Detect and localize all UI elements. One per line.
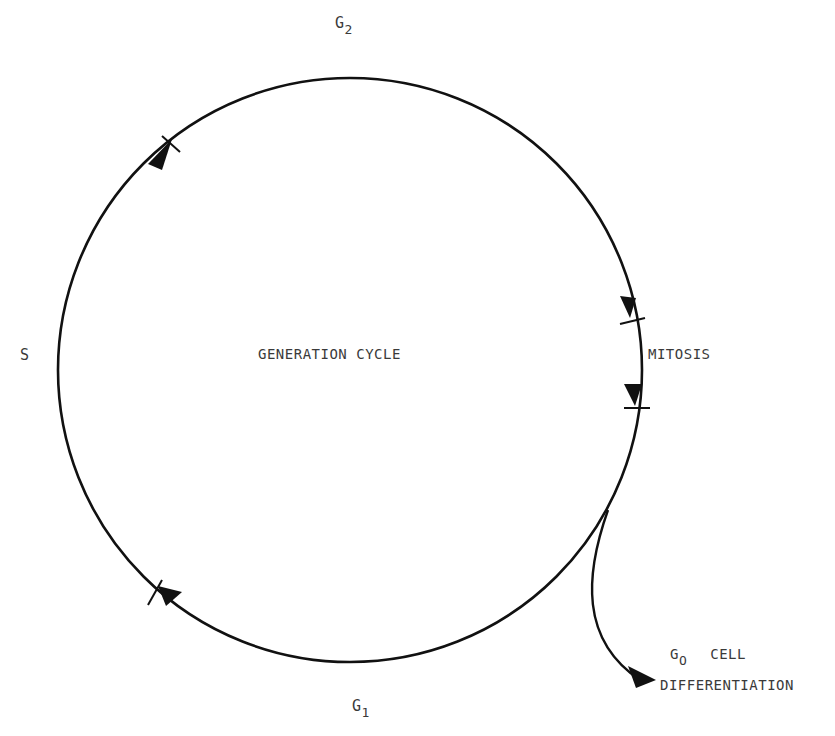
label-g0: GO CELL — [670, 646, 746, 662]
cycle-title: GENERATION CYCLE — [258, 346, 401, 362]
g2-mitosis-boundary-tick — [620, 318, 645, 324]
arrow-into-mitosis-icon — [620, 296, 636, 318]
label-mitosis: MITOSIS — [648, 346, 711, 362]
cycle-circle — [58, 78, 642, 662]
arrow-to-g0-icon — [628, 666, 656, 688]
label-g2: G2 — [335, 14, 353, 32]
label-g1: G1 — [352, 697, 370, 715]
cell-cycle-diagram: G2 S GENERATION CYCLE MITOSIS GO CELL DI… — [0, 0, 835, 736]
cycle-graphic — [0, 0, 835, 736]
label-s: S — [20, 346, 30, 364]
g0-exit-path — [592, 510, 640, 680]
arrow-into-s-icon — [158, 586, 182, 606]
label-differentiation: DIFFERENTIATION — [660, 677, 794, 693]
